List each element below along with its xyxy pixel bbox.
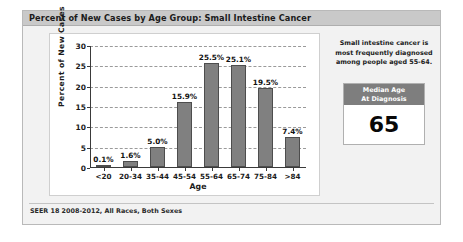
bar: 25.1% <box>231 65 245 167</box>
chart-screenshot: Percent of New Cases by Age Group: Small… <box>0 0 463 242</box>
x-tick-mark <box>131 168 132 171</box>
x-tick-mark <box>212 168 213 171</box>
plot-area: 051015202530 0.1%<201.6%20-345.0%35-4415… <box>90 46 306 168</box>
x-tick-mark <box>239 168 240 171</box>
source-caption: SEER 18 2008-2012, All Races, Both Sexes <box>30 207 182 215</box>
chart-panel: Percent of New Cases by Age Group: Small… <box>22 10 441 225</box>
bar-value-label: 0.1% <box>93 155 113 164</box>
x-tick-mark <box>104 168 105 171</box>
bar: 5.0% <box>150 147 164 167</box>
y-tick-label: 25 <box>76 62 86 71</box>
bar-value-label: 25.5% <box>199 53 224 62</box>
bar: 19.5% <box>258 88 272 167</box>
x-tick-label: 65-74 <box>227 172 250 181</box>
x-tick-label: 55-64 <box>200 172 223 181</box>
y-tick-label: 30 <box>76 42 86 51</box>
bar-value-label: 7.4% <box>282 127 302 136</box>
x-axis-line <box>90 167 306 168</box>
x-tick-label: 45-54 <box>173 172 196 181</box>
insight-note: Small intestine cancer is most frequentl… <box>335 39 433 68</box>
y-tick-mark <box>87 168 90 169</box>
median-age-header-line2: At Diagnosis <box>344 95 424 104</box>
x-tick-mark <box>185 168 186 171</box>
median-age-header-line1: Median Age <box>344 86 424 95</box>
bar-value-label: 19.5% <box>253 78 278 87</box>
x-tick-label: 75-84 <box>254 172 277 181</box>
y-axis-line <box>90 46 91 168</box>
footer-divider <box>29 203 434 204</box>
x-tick-mark <box>158 168 159 171</box>
bar: 25.5% <box>204 63 218 167</box>
median-age-header: Median Age At Diagnosis <box>344 84 424 105</box>
x-tick-label: >84 <box>284 172 300 181</box>
y-tick-label: 20 <box>76 82 86 91</box>
y-tick-label: 15 <box>76 103 86 112</box>
y-tick-label: 0 <box>81 164 86 173</box>
y-tick-label: 5 <box>81 143 86 152</box>
y-axis-label: Percent of New Cases <box>57 6 66 107</box>
x-axis-label: Age <box>90 182 306 191</box>
panel-titlebar: Percent of New Cases by Age Group: Small… <box>23 11 440 26</box>
x-tick-mark <box>266 168 267 171</box>
bar-value-label: 1.6% <box>120 151 140 160</box>
bar: 7.4% <box>285 137 299 167</box>
median-age-value: 65 <box>344 105 424 144</box>
x-tick-mark <box>293 168 294 171</box>
page-title: Percent of New Cases by Age Group: Small… <box>29 13 311 23</box>
y-tick-label: 10 <box>76 123 86 132</box>
x-tick-label: 20-34 <box>119 172 142 181</box>
x-tick-label: <20 <box>95 172 111 181</box>
bar-value-label: 15.9% <box>172 92 197 101</box>
median-age-box: Median Age At Diagnosis 65 <box>343 83 425 145</box>
bar: 15.9% <box>177 102 191 167</box>
bar-value-label: 5.0% <box>147 137 167 146</box>
x-tick-label: 35-44 <box>146 172 169 181</box>
bar-value-label: 25.1% <box>226 55 251 64</box>
bar-layer: 0.1%<201.6%20-345.0%35-4415.9%45-5425.5%… <box>90 46 306 168</box>
chart-card: Percent of New Cases 051015202530 0.1%<2… <box>49 33 320 196</box>
